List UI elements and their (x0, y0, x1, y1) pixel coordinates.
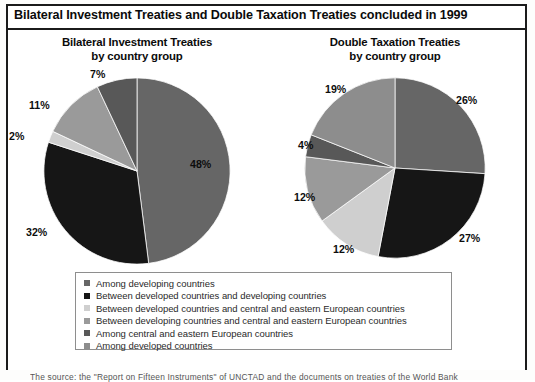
legend-swatch-icon-0 (84, 280, 90, 286)
chart-title-bits-line2: by country group (8, 50, 266, 64)
legend-item-between-developing-and-cee-countries: Between developing countries and central… (84, 314, 451, 326)
pie-wrap-dtts: 26% 27% 12% 12% 4% 19% (266, 76, 524, 266)
legend-item-between-developed-and-developing-countries: Between developed countries and developi… (84, 289, 451, 301)
pie-slice-double-taxation-treaties-26 (395, 78, 485, 174)
pie-label-dtts-12b: 12% (294, 191, 315, 203)
legend-swatch-icon-4 (84, 330, 90, 336)
legend-label-0: Among developing countries (96, 278, 215, 289)
pie-label-bits-2: 2% (9, 130, 24, 142)
charts-container: Bilateral Investment Treaties by country… (8, 32, 527, 268)
chart-double-taxation-treaties: Double Taxation Treaties by country grou… (266, 32, 524, 268)
pie-label-bits-48: 48% (190, 158, 211, 170)
page-title: Bilateral Investment Treaties and Double… (14, 8, 519, 22)
pie-chart-bits (42, 76, 232, 266)
pie-label-bits-32: 32% (26, 226, 47, 238)
legend-swatch-icon-3 (84, 318, 90, 324)
legend-label-3: Between developing countries and central… (96, 315, 407, 326)
pie-wrap-bits: 48% 32% 2% 11% 7% (8, 76, 266, 266)
legend-label-2: Between developed countries and central … (96, 303, 405, 314)
pie-label-dtts-26: 26% (456, 94, 477, 106)
chart-legend: Among developing countries Between devel… (75, 272, 452, 350)
legend-item-among-developing-countries: Among developing countries (84, 277, 451, 289)
pie-label-bits-7: 7% (90, 68, 105, 80)
pie-slice-bilateral-investment-treaties-48 (137, 78, 230, 263)
chart-bilateral-investment-treaties: Bilateral Investment Treaties by country… (8, 32, 266, 268)
pie-label-dtts-12a: 12% (333, 243, 354, 255)
pie-label-dtts-4: 4% (298, 139, 313, 151)
pie-label-bits-11: 11% (29, 99, 50, 111)
legend-label-5: Among developed countries (96, 340, 213, 351)
pie-label-dtts-27: 27% (459, 232, 480, 244)
pie-label-dtts-19: 19% (325, 83, 346, 95)
chart-title-dtts-line2: by country group (266, 50, 524, 64)
chart-title-bits-line1: Bilateral Investment Treaties (8, 36, 266, 50)
legend-swatch-icon-1 (84, 293, 90, 299)
legend-swatch-icon-5 (84, 343, 90, 349)
legend-label-4: Among central and eastern European count… (96, 328, 293, 339)
title-divider (8, 28, 527, 30)
chart-title-bits: Bilateral Investment Treaties by country… (8, 36, 266, 63)
chart-title-dtts: Double Taxation Treaties by country grou… (266, 36, 524, 63)
legend-item-between-developed-and-cee-countries: Between developed countries and central … (84, 302, 451, 314)
legend-item-among-developed-countries: Among developed countries (84, 339, 451, 351)
legend-label-1: Between developed countries and developi… (96, 290, 326, 301)
figure-footnote: The source: the "Report on Fifteen Instr… (30, 372, 510, 382)
chart-title-dtts-line1: Double Taxation Treaties (266, 36, 524, 50)
legend-swatch-icon-2 (84, 305, 90, 311)
legend-item-among-cee-countries: Among central and eastern European count… (84, 327, 451, 339)
pie-slice-double-taxation-treaties-27 (378, 168, 485, 258)
